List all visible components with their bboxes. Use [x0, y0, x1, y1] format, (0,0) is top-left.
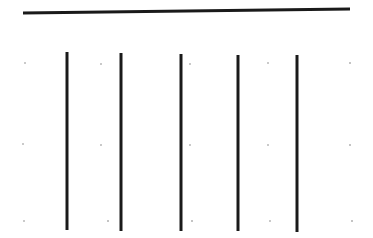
page-background — [0, 0, 373, 238]
scanned-figure — [0, 0, 373, 238]
figure-canvas — [0, 0, 373, 238]
